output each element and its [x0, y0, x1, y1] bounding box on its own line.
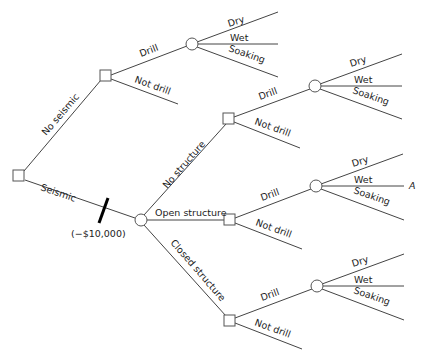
- label-drill-3: Drill: [259, 186, 281, 203]
- root-decision-node: [13, 170, 24, 181]
- decision-tree-diagram: No seismic Seismic (−$10,000) Drill Not …: [0, 0, 424, 353]
- label-soaking-4: Soaking: [352, 284, 391, 307]
- label-closed-structure: Closed structure: [168, 237, 228, 303]
- label-seismic-cost: (−$10,000): [71, 228, 126, 239]
- label-wet-3: Wet: [354, 174, 373, 185]
- decision-node-closed-structure: [224, 315, 235, 326]
- chance-node-2: [309, 80, 321, 92]
- label-endpoint-a: A: [408, 180, 416, 191]
- decision-node-no-seismic: [100, 70, 111, 81]
- label-soaking-1: Soaking: [227, 42, 266, 65]
- label-not-drill-4: Not drill: [253, 317, 292, 340]
- edge-closed-structure: [144, 225, 226, 316]
- label-no-seismic: No seismic: [39, 91, 81, 137]
- label-seismic: Seismic: [39, 181, 77, 203]
- chance-node-1: [186, 38, 198, 50]
- label-drill-1: Drill: [138, 42, 160, 59]
- cost-slash-mark: [99, 198, 108, 223]
- chance-node-4: [311, 280, 323, 292]
- decision-node-no-structure: [223, 113, 234, 124]
- label-dry-2: Dry: [348, 53, 368, 69]
- label-soaking-2: Soaking: [351, 84, 390, 107]
- label-dry-3: Dry: [350, 153, 370, 169]
- label-drill-4: Drill: [259, 286, 281, 303]
- label-no-structure: No structure: [160, 138, 207, 190]
- label-not-drill-1: Not drill: [133, 74, 172, 97]
- label-soaking-3: Soaking: [352, 184, 391, 207]
- label-not-drill-2: Not drill: [253, 116, 292, 139]
- label-wet-4: Wet: [354, 274, 373, 285]
- edge-no-seismic: [24, 80, 101, 171]
- label-not-drill-3: Not drill: [254, 217, 293, 240]
- label-dry-1: Dry: [226, 13, 246, 29]
- label-wet-2: Wet: [354, 74, 373, 85]
- label-wet-1: Wet: [230, 32, 249, 43]
- label-drill-2: Drill: [257, 85, 279, 102]
- label-open-structure: Open structure: [155, 207, 227, 218]
- label-dry-4: Dry: [350, 253, 370, 269]
- chance-node-seismic: [135, 214, 147, 226]
- chance-node-3: [310, 180, 322, 192]
